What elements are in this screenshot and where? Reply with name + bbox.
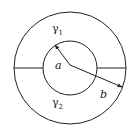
radius-a-label: a bbox=[55, 59, 62, 72]
region-gamma2-label: γ2 bbox=[52, 96, 63, 111]
inner-circle bbox=[43, 41, 97, 95]
coaxial-diagram: γ1 γ2 a b bbox=[0, 0, 135, 131]
region-gamma1-label: γ1 bbox=[52, 22, 63, 37]
radius-b-label: b bbox=[100, 88, 107, 101]
